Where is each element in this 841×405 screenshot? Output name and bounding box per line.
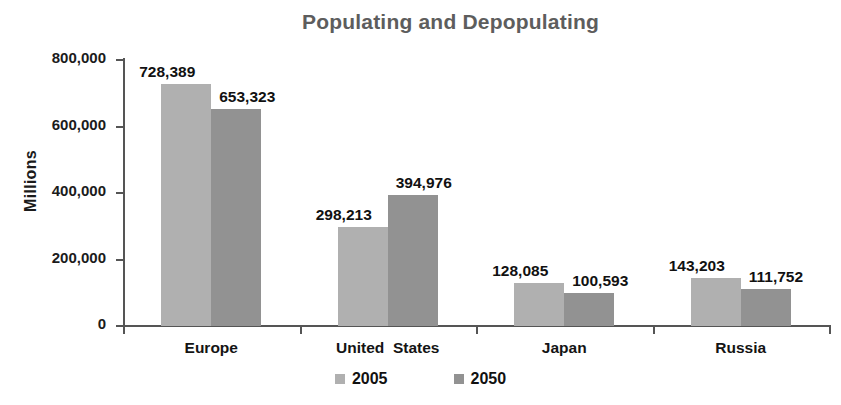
legend-label: 2050 bbox=[471, 370, 507, 388]
y-axis-tick-label: 600,000 bbox=[52, 116, 106, 133]
bar bbox=[514, 283, 564, 326]
y-axis-title: Millions bbox=[22, 126, 40, 236]
bar bbox=[388, 195, 438, 326]
y-axis-tick-label: 0 bbox=[98, 315, 106, 332]
legend-swatch-icon bbox=[335, 374, 345, 384]
bar-value-label: 298,213 bbox=[316, 206, 372, 224]
x-axis-category-label: Japan bbox=[476, 339, 653, 357]
bar-value-label: 111,752 bbox=[749, 268, 803, 286]
x-axis-category-label: Europe bbox=[123, 339, 300, 357]
bar bbox=[338, 227, 388, 326]
y-axis-tick-label: 800,000 bbox=[52, 49, 106, 66]
bar bbox=[741, 289, 791, 326]
bar bbox=[564, 293, 614, 326]
x-axis-tick bbox=[300, 325, 302, 334]
bar bbox=[691, 278, 741, 326]
legend-swatch-icon bbox=[454, 374, 464, 384]
legend-label: 2005 bbox=[352, 370, 388, 388]
chart-title: Populating and Depopulating bbox=[0, 10, 841, 34]
bar bbox=[161, 84, 211, 326]
bar bbox=[211, 109, 261, 326]
x-axis-tick bbox=[476, 325, 478, 334]
x-axis-category-label: Russia bbox=[653, 339, 830, 357]
plot-area: 800,000600,000400,000200,0000728,389653,… bbox=[123, 60, 829, 326]
bar-value-label: 143,203 bbox=[669, 257, 725, 275]
bar-chart: Populating and Depopulating Millions 800… bbox=[0, 0, 841, 405]
bar-value-label: 728,389 bbox=[139, 63, 195, 81]
y-axis-tick: 200,000 bbox=[116, 259, 123, 261]
y-axis-tick: 400,000 bbox=[116, 192, 123, 194]
y-axis-tick-label: 400,000 bbox=[52, 182, 106, 199]
y-axis-tick: 600,000 bbox=[116, 126, 123, 128]
chart-legend: 20052050 bbox=[0, 370, 841, 388]
legend-item: 2050 bbox=[454, 370, 507, 388]
bar-value-label: 653,323 bbox=[219, 88, 275, 106]
bar-value-label: 100,593 bbox=[572, 272, 628, 290]
y-axis-tick: 800,000 bbox=[116, 59, 123, 61]
y-axis-tick: 0 bbox=[116, 325, 123, 327]
x-axis-tick bbox=[653, 325, 655, 334]
bar-value-label: 394,976 bbox=[396, 174, 452, 192]
x-axis-category-label: United States bbox=[300, 339, 477, 357]
x-axis-tick bbox=[123, 325, 125, 334]
legend-item: 2005 bbox=[335, 370, 388, 388]
x-axis-tick bbox=[829, 325, 831, 334]
y-axis-tick-label: 200,000 bbox=[52, 249, 106, 266]
bar-value-label: 128,085 bbox=[492, 262, 548, 280]
